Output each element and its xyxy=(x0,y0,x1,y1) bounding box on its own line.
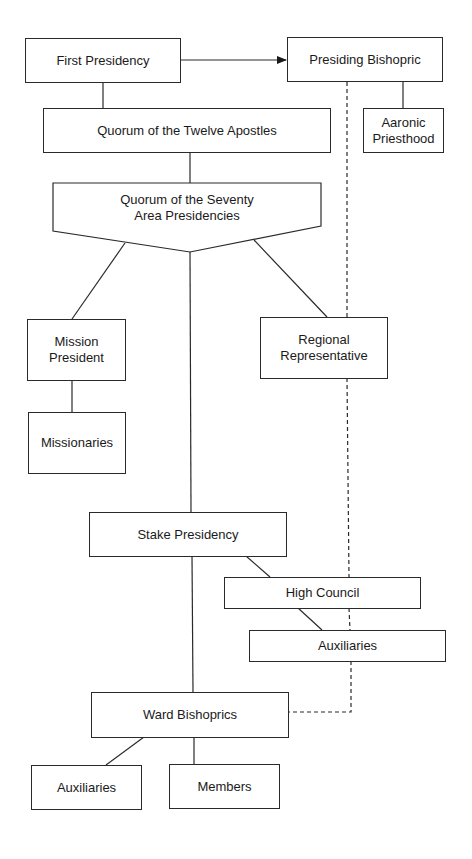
dashed-link-to-ward xyxy=(289,661,351,712)
node-label-line1: Aaronic xyxy=(381,115,425,131)
node-label: Stake Presidency xyxy=(137,527,238,543)
node-label-line1: Regional xyxy=(298,332,349,348)
node-label-line2: Priesthood xyxy=(372,131,434,147)
node-mission-president: Mission President xyxy=(27,319,126,381)
node-ward-auxiliaries: Auxiliaries xyxy=(31,765,142,810)
node-aaronic-priesthood: Aaronic Priesthood xyxy=(363,108,444,153)
node-members: Members xyxy=(169,764,280,809)
node-ward-bishoprics: Ward Bishoprics xyxy=(91,692,289,738)
node-label: Auxiliaries xyxy=(318,638,377,654)
node-missionaries: Missionaries xyxy=(28,412,126,474)
node-stake-presidency: Stake Presidency xyxy=(89,512,287,557)
node-label-line1: Mission xyxy=(54,334,98,350)
node-label-line2: President xyxy=(49,350,104,366)
org-chart: First Presidency Presiding Bishopric Quo… xyxy=(0,0,472,859)
node-regional-representative: Regional Representative xyxy=(260,317,388,379)
node-twelve-apostles: Quorum of the Twelve Apostles xyxy=(43,108,331,153)
node-label-line2: Area Presidencies xyxy=(53,208,321,224)
node-label: Ward Bishoprics xyxy=(143,707,237,723)
node-presiding-bishopric: Presiding Bishopric xyxy=(287,37,443,82)
node-quorum-of-seventy: Quorum of the Seventy Area Presidencies xyxy=(53,192,321,224)
node-label: First Presidency xyxy=(56,53,149,69)
node-label: Presiding Bishopric xyxy=(309,52,420,68)
node-high-council: High Council xyxy=(224,577,421,609)
node-label: Quorum of the Twelve Apostles xyxy=(97,123,277,139)
node-stake-auxiliaries: Auxiliaries xyxy=(249,630,446,662)
node-label: High Council xyxy=(286,585,360,601)
node-label: Members xyxy=(197,779,251,795)
node-label-line1: Quorum of the Seventy xyxy=(53,192,321,208)
node-label: Auxiliaries xyxy=(57,780,116,796)
node-first-presidency: First Presidency xyxy=(25,38,181,83)
node-label-line2: Representative xyxy=(280,348,367,364)
node-label: Missionaries xyxy=(41,435,113,451)
